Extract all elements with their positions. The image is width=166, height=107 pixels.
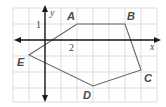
y-axis-down-arrow-icon xyxy=(42,95,48,102)
x-axis-right-arrow-icon xyxy=(154,37,161,43)
x-axis-label: x xyxy=(149,41,155,52)
vertex-label-c: C xyxy=(144,72,153,84)
coordinate-plane: y x 1 2 A B C D E xyxy=(0,0,166,107)
x-axis-left-arrow-icon xyxy=(14,37,21,43)
polygon-abcde xyxy=(29,24,141,86)
vertex-label-e: E xyxy=(17,56,25,68)
vertex-label-d: D xyxy=(83,89,91,101)
vertex-label-b: B xyxy=(127,10,135,22)
vertex-label-a: A xyxy=(66,10,75,22)
y-tick-label: 1 xyxy=(36,19,41,30)
y-axis-up-arrow-icon xyxy=(42,5,48,12)
x-axis xyxy=(14,37,161,43)
x-tick-label: 2 xyxy=(69,42,74,53)
y-axis-label: y xyxy=(49,7,55,18)
y-axis xyxy=(42,5,48,102)
